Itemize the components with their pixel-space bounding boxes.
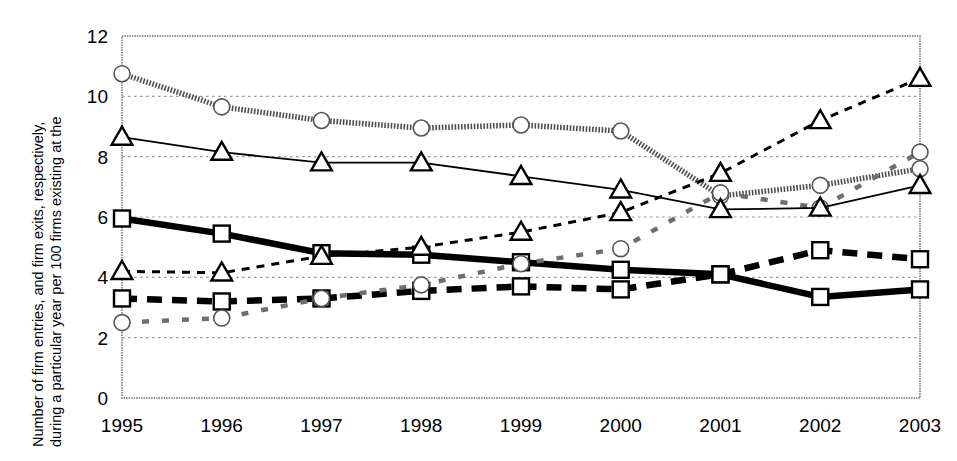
series-exit_rd <box>114 242 928 309</box>
data-point-exit_rd-1999 <box>513 278 529 294</box>
data-point-exit_kibs-1997 <box>314 290 330 306</box>
x-tick-label-1996: 1996 <box>201 415 243 436</box>
x-tick-label-1999: 1999 <box>500 415 542 436</box>
y-tick-label-6: 6 <box>97 207 108 228</box>
y-tick-label-2: 2 <box>97 328 108 349</box>
data-point-entry_total-2003 <box>910 175 931 193</box>
data-point-entry_kibs-1999 <box>513 117 529 133</box>
data-point-entry_total-1995 <box>112 127 133 145</box>
data-point-exit_total-2002 <box>810 110 831 128</box>
chart-canvas: 0246810121995199619971998199920002001200… <box>0 0 957 461</box>
data-point-exit_rd-2002 <box>812 242 828 258</box>
data-point-entry_kibs-1998 <box>413 120 429 136</box>
data-point-exit_kibs-1998 <box>413 277 429 293</box>
data-point-entry_rd-1996 <box>214 226 230 242</box>
x-tick-label-2000: 2000 <box>600 415 642 436</box>
data-point-exit_rd-1995 <box>114 290 130 306</box>
data-point-entry_kibs-2002 <box>812 177 828 193</box>
data-point-exit_rd-1996 <box>214 293 230 309</box>
data-point-entry_kibs-1995 <box>114 66 130 82</box>
y-tick-label-0: 0 <box>97 388 108 409</box>
data-point-entry_kibs-1997 <box>314 112 330 128</box>
data-point-exit_rd-2000 <box>613 281 629 297</box>
data-point-entry_kibs-1996 <box>214 99 230 115</box>
x-tick-label-1997: 1997 <box>300 415 342 436</box>
chart-figure: Number of firm entries, and firm exits, … <box>0 0 957 461</box>
x-tick-label-2003: 2003 <box>899 415 941 436</box>
data-point-exit_total-2003 <box>910 68 931 86</box>
data-point-entry_rd-1995 <box>114 211 130 227</box>
data-point-entry_kibs-2000 <box>613 123 629 139</box>
data-point-entry_rd-2002 <box>812 289 828 305</box>
y-tick-label-4: 4 <box>97 267 108 288</box>
data-point-entry_rd-2000 <box>613 262 629 278</box>
data-point-exit_total-2001 <box>710 163 731 181</box>
data-point-exit_kibs-1996 <box>214 310 230 326</box>
data-point-entry_rd-2003 <box>912 281 928 297</box>
data-point-exit_kibs-1999 <box>513 256 529 272</box>
data-point-entry_total-1998 <box>411 152 432 170</box>
series-entry_total <box>112 127 931 217</box>
data-point-exit_kibs-2000 <box>613 241 629 257</box>
data-point-exit_kibs-2003 <box>912 144 928 160</box>
y-tick-label-12: 12 <box>87 26 108 47</box>
data-point-exit_kibs-1995 <box>114 315 130 331</box>
data-point-exit_rd-2003 <box>912 251 928 267</box>
x-tick-label-1998: 1998 <box>400 415 442 436</box>
x-tick-label-1995: 1995 <box>101 415 143 436</box>
data-point-exit_rd-2001 <box>713 266 729 282</box>
x-tick-label-2001: 2001 <box>699 415 741 436</box>
x-tick-label-2002: 2002 <box>799 415 841 436</box>
y-tick-label-10: 10 <box>87 86 108 107</box>
y-tick-label-8: 8 <box>97 147 108 168</box>
